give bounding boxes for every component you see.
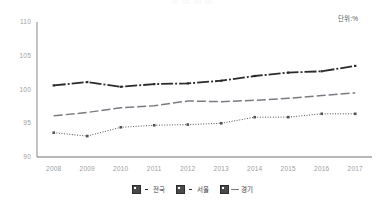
- data-point: [287, 116, 290, 119]
- line-chart: 주 택 매 매 단위:% 9095100105110 2008200920102…: [0, 0, 384, 208]
- data-point: [254, 75, 256, 77]
- data-point: [186, 123, 189, 126]
- data-point: [153, 83, 155, 85]
- y-tick-label: 100: [9, 86, 31, 93]
- series-line: [54, 66, 356, 87]
- data-point: [53, 84, 55, 86]
- legend-item-label: 경기: [241, 184, 253, 194]
- data-point: [220, 122, 223, 125]
- data-point: [86, 135, 89, 138]
- data-point: [220, 80, 222, 82]
- legend-item-전국[interactable]: 전국: [132, 184, 165, 194]
- legend-swatch-icon: [220, 185, 229, 194]
- x-tick-label: 2012: [171, 165, 205, 172]
- legend-line-sample-icon: [143, 186, 151, 193]
- legend-swatch-icon: [176, 185, 185, 194]
- data-point: [187, 82, 189, 84]
- x-tick-label: 2015: [271, 165, 305, 172]
- x-tick-label: 2010: [104, 165, 138, 172]
- plot-area: [0, 0, 384, 208]
- legend-item-label: 전국: [153, 184, 165, 194]
- data-point: [254, 99, 256, 101]
- data-point: [287, 72, 289, 74]
- series-서울: [52, 113, 356, 138]
- x-tick-label: 2016: [305, 165, 339, 172]
- data-point: [354, 113, 357, 116]
- data-point: [253, 116, 256, 119]
- series-경기: [53, 92, 357, 117]
- y-tick-label: 105: [9, 52, 31, 59]
- data-point: [320, 113, 323, 116]
- x-tick-label: 2014: [238, 165, 272, 172]
- series-line: [54, 93, 356, 116]
- data-point: [119, 126, 122, 129]
- legend-line-sample-icon: [231, 186, 239, 193]
- y-tick-label: 90: [9, 153, 31, 160]
- data-point: [153, 124, 156, 127]
- data-point: [120, 86, 122, 88]
- x-tick-label: 2008: [37, 165, 71, 172]
- legend-item-label: 서울: [197, 184, 209, 194]
- series-전국: [53, 65, 357, 88]
- x-tick-label: 2011: [137, 165, 171, 172]
- x-tick-label: 2017: [338, 165, 372, 172]
- series-line: [54, 114, 356, 136]
- legend-item-경기[interactable]: 경기: [220, 184, 253, 194]
- series-group: [52, 65, 356, 138]
- y-tick-label: 110: [9, 18, 31, 25]
- data-point: [52, 131, 55, 134]
- y-tick-label: 95: [9, 119, 31, 126]
- legend-swatch-icon: [132, 185, 141, 194]
- data-point: [354, 65, 356, 67]
- legend-item-서울[interactable]: 서울: [176, 184, 209, 194]
- legend-line-sample-icon: [187, 186, 195, 193]
- x-tick-label: 2009: [70, 165, 104, 172]
- data-point: [321, 70, 323, 72]
- x-tick-label: 2013: [204, 165, 238, 172]
- chart-legend: 전국서울경기: [0, 184, 384, 194]
- data-point: [86, 81, 88, 83]
